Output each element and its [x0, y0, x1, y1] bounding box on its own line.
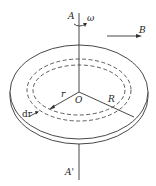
label-R: R — [107, 94, 115, 104]
label-dr: dr — [22, 109, 33, 119]
label-O: O — [75, 95, 83, 105]
label-axis-top: A — [67, 11, 75, 21]
label-B: B — [138, 25, 146, 35]
disk-diagram: A ω B O r R dr A' — [0, 0, 156, 186]
label-omega: ω — [87, 13, 95, 23]
label-axis-bottom: A' — [64, 167, 74, 177]
label-r: r — [61, 89, 66, 99]
